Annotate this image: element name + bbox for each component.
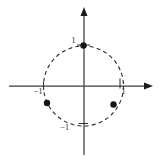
x-axis-arrow-icon bbox=[144, 83, 153, 90]
unit-circle-figure: 1−11−1 bbox=[0, 0, 165, 161]
point-top bbox=[80, 42, 86, 48]
label-x-pos1: 1 bbox=[121, 86, 126, 96]
y-axis-arrow-icon bbox=[81, 7, 88, 16]
label-x-neg1: −1 bbox=[33, 86, 43, 96]
point-lower-right bbox=[110, 101, 116, 107]
point-lower-left bbox=[44, 100, 50, 106]
screenshot-root: 1−11−1 bbox=[0, 0, 165, 161]
label-y-neg1: −1 bbox=[60, 122, 70, 132]
label-y-pos1: 1 bbox=[71, 35, 76, 45]
